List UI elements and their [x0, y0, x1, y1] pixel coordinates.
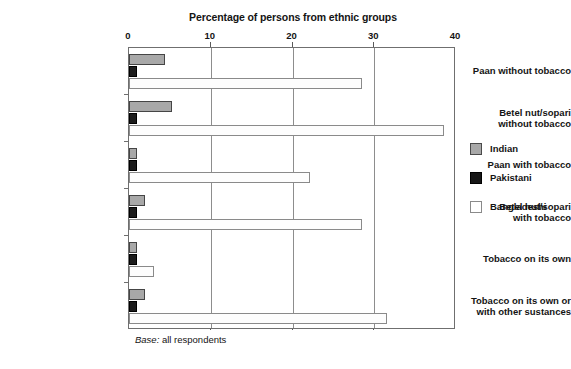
bar-bangladeshi-cat1	[129, 78, 362, 89]
plot-area	[128, 47, 455, 329]
bar-pakistani-cat4	[129, 207, 137, 218]
legend-item-bangladeshi[interactable]: Bangladeshi	[470, 200, 570, 213]
bar-bangladeshi-cat6	[129, 313, 387, 324]
x-tick-label-20: 20	[286, 30, 297, 41]
x-tick-label-0: 0	[125, 30, 130, 41]
category-label-6: Tobacco on its own orwith other sustance…	[447, 294, 571, 317]
legend-label-pakistani: Pakistani	[490, 172, 532, 183]
chart-title: Percentage of persons from ethnic groups	[128, 11, 458, 23]
x-tick-label-40: 40	[450, 30, 461, 41]
legend: IndianPakistaniBangladeshi	[470, 142, 570, 229]
bar-pakistani-cat5	[129, 254, 137, 265]
legend-swatch-pakistani	[470, 172, 482, 184]
bar-pakistani-cat6	[129, 301, 137, 312]
bar-chart-figure: Percentage of persons from ethnic groups…	[0, 0, 571, 369]
category-label-line1: Tobacco on its own or	[447, 294, 571, 306]
category-label-1: Paan without tobacco	[447, 65, 571, 77]
base-note-label: Base:	[135, 334, 159, 345]
x-tick-label-10: 10	[204, 30, 215, 41]
bar-bangladeshi-cat4	[129, 219, 362, 230]
gridline-20	[293, 48, 294, 328]
legend-item-indian[interactable]: Indian	[470, 142, 570, 155]
base-note-value: all respondents	[159, 334, 226, 345]
legend-swatch-indian	[470, 143, 482, 155]
bar-indian-cat6	[129, 289, 145, 300]
gridline-10	[211, 48, 212, 328]
bar-indian-cat1	[129, 54, 165, 65]
bar-bangladeshi-cat3	[129, 172, 310, 183]
category-label-line1: Tobacco on its own	[447, 253, 571, 265]
bar-indian-cat3	[129, 148, 137, 159]
category-label-5: Tobacco on its own	[447, 253, 571, 265]
legend-swatch-bangladeshi	[470, 201, 482, 213]
category-label-line1: Betel nut/sopari	[447, 106, 571, 118]
bar-indian-cat5	[129, 242, 137, 253]
bar-pakistani-cat1	[129, 66, 137, 77]
bar-pakistani-cat2	[129, 113, 137, 124]
bar-bangladeshi-cat5	[129, 266, 154, 277]
category-label-2: Betel nut/sopariwithout tobacco	[447, 106, 571, 129]
base-note: Base: all respondents	[135, 334, 226, 345]
bar-pakistani-cat3	[129, 160, 137, 171]
x-tick-label-30: 30	[368, 30, 379, 41]
legend-label-bangladeshi: Bangladeshi	[490, 201, 547, 212]
bar-indian-cat4	[129, 195, 145, 206]
category-label-line1: Paan without tobacco	[447, 65, 571, 77]
legend-item-pakistani[interactable]: Pakistani	[470, 171, 570, 184]
category-label-line2: with other sustances	[447, 306, 571, 318]
legend-label-indian: Indian	[490, 143, 518, 154]
gridline-30	[374, 48, 375, 328]
bar-bangladeshi-cat2	[129, 125, 444, 136]
category-label-line2: without tobacco	[447, 118, 571, 130]
bar-indian-cat2	[129, 101, 172, 112]
